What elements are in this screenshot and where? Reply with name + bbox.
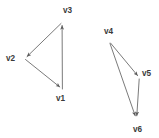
edge-v2-v1 bbox=[26, 60, 60, 88]
diagram-canvas: v1 v2 v3 v4 v5 v6 bbox=[0, 0, 159, 138]
vertex-label-v3: v3 bbox=[63, 6, 73, 15]
edge-v5-v6 bbox=[137, 79, 139, 116]
vertex-label-v1: v1 bbox=[56, 94, 66, 103]
vertex-label-v4: v4 bbox=[104, 27, 114, 36]
vertex-label-v2: v2 bbox=[6, 54, 16, 63]
edge-v4-v6 bbox=[110, 44, 135, 116]
directed-graph-svg: v1 v2 v3 v4 v5 v6 bbox=[0, 0, 159, 138]
edge-v4-v5 bbox=[111, 43, 138, 76]
left-triangle-group: v1 v2 v3 bbox=[6, 6, 73, 103]
vertex-label-v5: v5 bbox=[142, 69, 152, 78]
vertex-label-v6: v6 bbox=[133, 125, 143, 134]
edge-v3-v2 bbox=[27, 24, 61, 57]
right-triangle-group: v4 v5 v6 bbox=[104, 27, 152, 134]
